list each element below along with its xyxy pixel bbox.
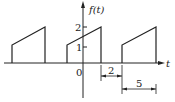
waveform-diagram: t f(t) 2 1 0 2 5 (0, 0, 175, 102)
t-axis-label: t (166, 58, 171, 69)
pulse-1 (67, 27, 101, 63)
dim-5-label: 5 (136, 78, 142, 89)
tick-label-1: 1 (76, 42, 82, 53)
t-axis-arrow-icon (158, 61, 165, 65)
dim-2-label: 2 (108, 65, 114, 76)
dim-2-arrow-left-icon (101, 75, 106, 78)
f-axis-arrow-icon (81, 1, 85, 8)
dim-5-arrow-right-icon (151, 88, 156, 91)
pulse-0 (12, 27, 45, 63)
tick-label-2: 2 (75, 22, 81, 33)
dim-2-arrow-right-icon (117, 75, 122, 78)
pulse-2 (122, 27, 156, 63)
origin-label: 0 (76, 67, 82, 78)
f-axis-label: f(t) (88, 4, 105, 15)
dim-5-arrow-left-icon (122, 88, 127, 91)
